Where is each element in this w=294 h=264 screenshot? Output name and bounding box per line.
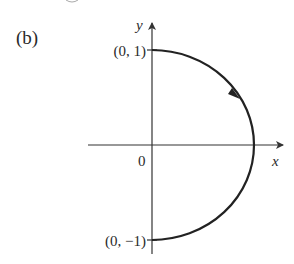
clipped-text-fragment xyxy=(66,0,78,2)
parametric-curve-diagram: (b) y x 0 (0, 1) (0, −1) xyxy=(0,0,294,264)
origin-label: 0 xyxy=(138,153,146,169)
panel-label: (b) xyxy=(16,27,38,49)
x-axis-label: x xyxy=(271,153,279,169)
point-label-top: (0, 1) xyxy=(114,43,147,60)
y-axis-label: y xyxy=(134,17,143,33)
point-label-bottom: (0, −1) xyxy=(105,233,146,250)
